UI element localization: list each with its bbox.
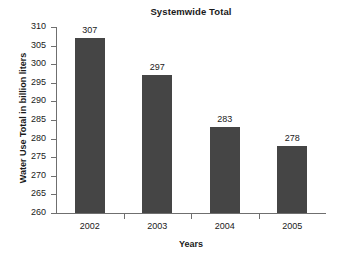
bar xyxy=(142,75,172,213)
x-axis-tick-label: 2004 xyxy=(195,221,255,231)
chart-title: Systemwide Total xyxy=(56,6,326,17)
bar-value-label: 297 xyxy=(127,62,187,72)
y-axis-tick xyxy=(51,120,56,121)
y-axis-tick-label: 275 xyxy=(8,151,46,161)
y-axis-tick-label: 265 xyxy=(8,188,46,198)
y-axis-tick xyxy=(51,46,56,47)
x-axis-title: Years xyxy=(56,239,326,249)
y-axis-tick xyxy=(51,194,56,195)
x-axis-tick xyxy=(259,214,260,219)
y-axis-tick xyxy=(51,139,56,140)
y-axis-tick-label: 310 xyxy=(8,21,46,31)
x-axis-tick xyxy=(191,214,192,219)
y-axis-tick xyxy=(51,157,56,158)
x-axis-tick xyxy=(124,214,125,219)
bar-value-label: 283 xyxy=(195,114,255,124)
bar xyxy=(277,146,307,213)
y-axis-tick-label: 270 xyxy=(8,170,46,180)
y-axis-tick xyxy=(51,213,56,214)
x-axis-tick-label: 2005 xyxy=(262,221,322,231)
bar xyxy=(75,38,105,213)
y-axis-tick-label: 290 xyxy=(8,95,46,105)
y-axis-tick xyxy=(51,101,56,102)
x-axis-tick-label: 2002 xyxy=(60,221,120,231)
bar-value-label: 278 xyxy=(262,133,322,143)
bar xyxy=(210,127,240,213)
y-axis-tick xyxy=(51,83,56,84)
bar-chart: Systemwide Total Water Use Total in bill… xyxy=(0,0,337,260)
y-axis-tick xyxy=(51,176,56,177)
x-axis-tick-label: 2003 xyxy=(127,221,187,231)
y-axis-tick-label: 295 xyxy=(8,77,46,87)
bar-value-label: 307 xyxy=(60,25,120,35)
y-axis-tick-label: 285 xyxy=(8,114,46,124)
y-axis-line xyxy=(56,27,57,214)
y-axis-tick xyxy=(51,27,56,28)
y-axis-tick-label: 305 xyxy=(8,40,46,50)
y-axis-tick-label: 260 xyxy=(8,207,46,217)
y-axis-tick xyxy=(51,64,56,65)
y-axis-tick-label: 280 xyxy=(8,133,46,143)
y-axis-tick-label: 300 xyxy=(8,58,46,68)
